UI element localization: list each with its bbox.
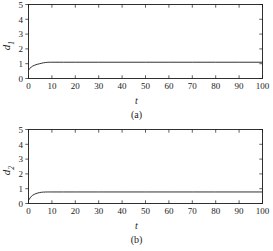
y-tick-label: 0 xyxy=(19,74,24,84)
x-axis-label-a: t xyxy=(0,95,273,106)
figure-two-panel-convergence-plots: d1 0102030405060708090100012345 t (a) d2… xyxy=(0,0,273,251)
x-tick-label: 0 xyxy=(26,81,31,91)
x-tick-label: 70 xyxy=(188,206,198,216)
x-tick-label: 60 xyxy=(164,206,174,216)
y-tick-label: 1 xyxy=(19,59,24,69)
x-tick-label: 90 xyxy=(235,81,245,91)
caption-b: (b) xyxy=(0,234,273,245)
y-tick-label: 5 xyxy=(19,0,24,10)
y-tick-label: 3 xyxy=(19,29,24,39)
caption-a: (a) xyxy=(0,109,273,120)
data-series-line xyxy=(29,62,263,70)
x-tick-label: 80 xyxy=(211,206,221,216)
x-tick-label: 30 xyxy=(94,206,104,216)
x-tick-label: 30 xyxy=(94,81,104,91)
panel-a: d1 0102030405060708090100012345 t (a) xyxy=(0,0,273,125)
x-axis-label-b: t xyxy=(0,220,273,231)
y-tick-label: 2 xyxy=(19,169,24,179)
x-tick-label: 50 xyxy=(141,81,151,91)
x-tick-label: 80 xyxy=(211,81,221,91)
x-tick-label: 70 xyxy=(188,81,198,91)
x-tick-label: 40 xyxy=(118,206,128,216)
x-tick-label: 90 xyxy=(235,206,245,216)
panel-b: d2 0102030405060708090100012345 t (b) xyxy=(0,125,273,250)
y-tick-label: 1 xyxy=(19,184,24,194)
x-tick-label: 20 xyxy=(71,81,81,91)
y-tick-label: 2 xyxy=(19,44,24,54)
x-tick-label: 20 xyxy=(71,206,81,216)
x-tick-label: 100 xyxy=(256,81,270,91)
x-tick-label: 10 xyxy=(47,81,57,91)
x-tick-label: 60 xyxy=(164,81,174,91)
plot-frame xyxy=(29,5,263,79)
y-tick-label: 0 xyxy=(19,199,24,209)
x-tick-label: 40 xyxy=(118,81,128,91)
x-tick-label: 100 xyxy=(256,206,270,216)
y-tick-label: 4 xyxy=(19,140,24,150)
plot-area-b: 0102030405060708090100012345 xyxy=(0,125,273,225)
x-tick-label: 50 xyxy=(141,206,151,216)
x-tick-label: 0 xyxy=(26,206,31,216)
y-tick-label: 4 xyxy=(19,15,24,25)
plot-area-a: 0102030405060708090100012345 xyxy=(0,0,273,100)
x-tick-label: 10 xyxy=(47,206,57,216)
y-tick-label: 5 xyxy=(19,125,24,135)
data-series-line xyxy=(29,192,263,201)
y-tick-label: 3 xyxy=(19,154,24,164)
